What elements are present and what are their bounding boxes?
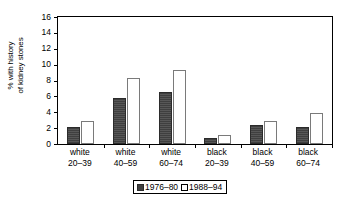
x-axis-category-label: black40–59 xyxy=(240,147,286,169)
y-axis-tick-label: 8 xyxy=(27,76,51,85)
y-axis-tick-label: 16 xyxy=(27,13,51,22)
plot-area: 0246810121416 xyxy=(57,16,333,145)
x-axis-category-label: white60–74 xyxy=(148,147,194,169)
x-axis-category-label: black20–39 xyxy=(194,147,240,169)
x-axis-category-line: 20–39 xyxy=(194,158,240,169)
x-axis-category-line: 40–59 xyxy=(240,158,286,169)
x-axis-category-line: black xyxy=(240,147,286,158)
legend-item-1976-80: 1976–80 xyxy=(137,182,178,192)
bar-group xyxy=(58,17,332,144)
legend-swatch-dark-icon xyxy=(137,184,144,191)
y-axis-title: % with history of kidney stones xyxy=(0,0,30,150)
y-axis-tick-mark xyxy=(54,144,58,145)
x-axis-category-line: 60–74 xyxy=(285,158,331,169)
x-axis-category-label: white40–59 xyxy=(103,147,149,169)
y-axis-title-line-1: % with history xyxy=(6,6,16,126)
chart-legend: 1976–80 1988–94 xyxy=(133,180,227,194)
y-axis-tick-label: 2 xyxy=(27,124,51,133)
kidney-stones-bar-chart: % with history of kidney stones 02468101… xyxy=(0,0,339,204)
x-axis-category-label: black60–74 xyxy=(285,147,331,169)
legend-swatch-light-icon xyxy=(181,184,188,191)
x-axis-tick-mark xyxy=(332,144,333,148)
legend-label-1976-80: 1976–80 xyxy=(145,182,178,192)
y-axis-tick-label: 12 xyxy=(27,44,51,53)
legend-label-1988-94: 1988–94 xyxy=(189,182,222,192)
x-axis-category-line: white xyxy=(103,147,149,158)
bar-1976-80 xyxy=(296,127,309,144)
x-axis-category-line: black xyxy=(285,147,331,158)
y-axis-tick-label: 4 xyxy=(27,108,51,117)
y-axis-tick-label: 6 xyxy=(27,92,51,101)
x-axis-category-label: white20–39 xyxy=(57,147,103,169)
x-axis-category-line: 60–74 xyxy=(148,158,194,169)
y-axis-title-line-2: of kidney stones xyxy=(15,6,25,126)
legend-item-1988-94: 1988–94 xyxy=(181,182,222,192)
x-axis-category-line: white xyxy=(148,147,194,158)
x-axis-category-line: black xyxy=(194,147,240,158)
x-axis-category-line: 20–39 xyxy=(57,158,103,169)
x-axis-category-line: 40–59 xyxy=(103,158,149,169)
y-axis-tick-label: 0 xyxy=(27,140,51,149)
y-axis-tick-label: 14 xyxy=(27,28,51,37)
y-axis-tick-label: 10 xyxy=(27,60,51,69)
x-axis-category-line: white xyxy=(57,147,103,158)
bar-1988-94 xyxy=(310,113,323,144)
